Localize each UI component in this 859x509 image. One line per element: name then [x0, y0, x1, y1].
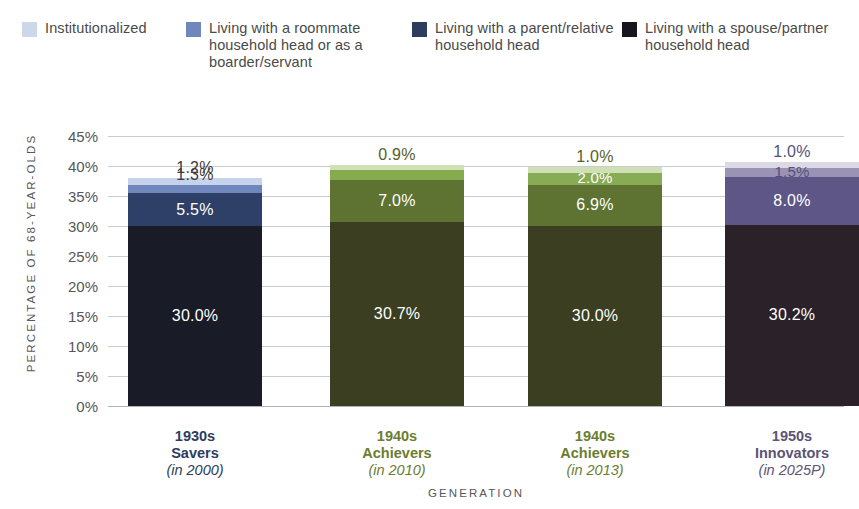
y-tick-label: 20% [44, 278, 98, 295]
x-label-year-note: (in 2010) [330, 462, 464, 479]
x-label-decade: 1950s [725, 428, 859, 445]
x-label-bar-1950s-innovators: 1950sInnovators(in 2025P) [725, 428, 859, 479]
y-tick-label: 35% [44, 188, 98, 205]
bars-area: 5.5%30.0%1.3%1.2%7.0%30.7%1.6%0.9%2.0%6.… [108, 96, 844, 426]
y-tick-label: 0% [44, 398, 98, 415]
x-label-year-note: (in 2013) [528, 462, 662, 479]
segment-value-label: 30.0% [172, 307, 218, 325]
bar-segment-roommate[interactable] [330, 170, 464, 180]
legend-swatch-roommate [186, 22, 201, 37]
segment-value-label: 30.2% [769, 306, 815, 324]
bar-bar-1930s-savers[interactable]: 5.5%30.0%1.3%1.2% [128, 76, 262, 406]
y-tick-label: 10% [44, 338, 98, 355]
legend-swatch-parent-relative [412, 22, 427, 37]
segment-value-label: 7.0% [378, 192, 415, 210]
bar-segment-parent[interactable]: 8.0% [725, 177, 859, 225]
x-label-year-note: (in 2025P) [725, 462, 859, 479]
segment-value-label-above: 1.0% [725, 143, 859, 161]
x-label-bar-1930s-savers: 1930sSavers(in 2000) [128, 428, 262, 479]
legend-label-institutionalized: Institutionalized [45, 20, 147, 37]
x-axis-title: GENERATION [108, 487, 844, 499]
y-tick-label: 30% [44, 218, 98, 235]
legend-label-spouse-partner: Living with a spouse/partner household h… [645, 20, 837, 54]
segment-value-label: 30.7% [374, 305, 420, 323]
y-tick-label: 40% [44, 158, 98, 175]
bar-segment-spouse[interactable]: 30.0% [128, 226, 262, 406]
x-label-bar-1940s-achievers-2013: 1940sAchievers(in 2013) [528, 428, 662, 479]
bar-stack: 7.0%30.7% [330, 165, 464, 406]
x-label-generation-name: Achievers [528, 445, 662, 462]
segment-value-label: 6.9% [576, 196, 613, 214]
y-tick-label: 15% [44, 308, 98, 325]
plot-area: PERCENTAGE OF 68-YEAR-OLDS 45%40%35%30%2… [0, 96, 844, 426]
bar-segment-spouse[interactable]: 30.2% [725, 225, 859, 406]
segment-value-label-above: 0.9% [330, 146, 464, 164]
x-label-year-note: (in 2000) [128, 462, 262, 479]
y-axis-title: PERCENTAGE OF 68-YEAR-OLDS [25, 103, 37, 403]
y-tick-label: 25% [44, 248, 98, 265]
bar-bar-1950s-innovators[interactable]: 1.5%8.0%30.2%1.0% [725, 76, 859, 406]
legend-swatch-spouse-partner [622, 22, 637, 37]
y-tick-label: 45% [44, 128, 98, 145]
legend-item-roommate[interactable]: Living with a roommate household head or… [186, 20, 406, 71]
segment-value-label: 8.0% [773, 192, 810, 210]
x-label-generation-name: Innovators [725, 445, 859, 462]
segment-value-label: 30.0% [572, 307, 618, 325]
x-label-generation-name: Achievers [330, 445, 464, 462]
legend-item-institutionalized[interactable]: Institutionalized [22, 20, 182, 37]
x-label-decade: 1940s [330, 428, 464, 445]
bar-bar-1940s-achievers-2013[interactable]: 2.0%6.9%30.0%1.0% [528, 76, 662, 406]
legend-item-parent-relative[interactable]: Living with a parent/relative household … [412, 20, 622, 54]
bar-segment-roommate[interactable]: 1.5% [725, 168, 859, 177]
bar-bar-1940s-achievers-2010[interactable]: 7.0%30.7%1.6%0.9% [330, 76, 464, 406]
bar-segment-roommate[interactable] [128, 185, 262, 193]
bar-segment-spouse[interactable]: 30.0% [528, 226, 662, 406]
bar-segment-parent[interactable]: 7.0% [330, 180, 464, 222]
x-label-generation-name: Savers [128, 445, 262, 462]
segment-value-label: 2.0% [578, 169, 613, 186]
x-axis-category-labels: 1930sSavers(in 2000)1940sAchievers(in 20… [108, 428, 844, 486]
bar-segment-spouse[interactable]: 30.7% [330, 222, 464, 406]
bar-segment-parent[interactable]: 6.9% [528, 185, 662, 226]
x-label-decade: 1930s [128, 428, 262, 445]
bar-segment-parent[interactable]: 5.5% [128, 193, 262, 226]
segment-value-label-above: 1.0% [528, 148, 662, 166]
segment-value-label: 5.5% [176, 201, 213, 219]
legend-label-parent-relative: Living with a parent/relative household … [435, 20, 622, 54]
x-label-bar-1940s-achievers-2010: 1940sAchievers(in 2010) [330, 428, 464, 479]
y-tick-label: 5% [44, 368, 98, 385]
legend-label-roommate: Living with a roommate household head or… [209, 20, 406, 71]
bar-segment-roommate[interactable]: 2.0% [528, 173, 662, 185]
bar-stack: 2.0%6.9%30.0% [528, 167, 662, 406]
bar-stack: 1.5%8.0%30.2% [725, 162, 859, 406]
segment-value-label-above: 1.2% [128, 159, 262, 177]
x-label-decade: 1940s [528, 428, 662, 445]
legend-swatch-institutionalized [22, 22, 37, 37]
bar-stack: 5.5%30.0% [128, 178, 262, 406]
y-axis-ticks: 45%40%35%30%25%20%15%10%5%0% [44, 96, 98, 426]
legend-item-spouse-partner[interactable]: Living with a spouse/partner household h… [622, 20, 837, 54]
